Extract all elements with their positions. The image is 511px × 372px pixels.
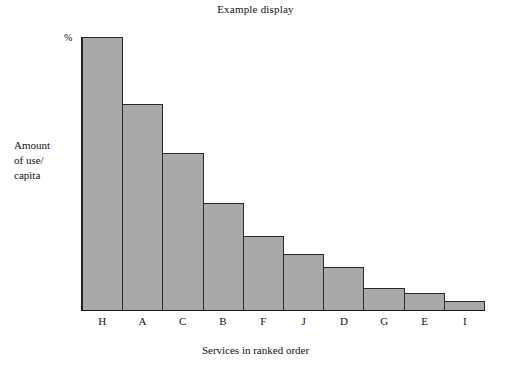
x-tick-C: C bbox=[163, 315, 203, 327]
x-tick-I: I bbox=[445, 315, 485, 327]
x-tick-B: B bbox=[203, 315, 243, 327]
y-axis-label-line-2: of use/ bbox=[14, 153, 78, 168]
x-axis-label: Services in ranked order bbox=[0, 344, 511, 356]
bar-B bbox=[203, 203, 244, 310]
bar-H bbox=[82, 37, 123, 310]
chart-figure: Example display % Amount of use/ capita … bbox=[0, 0, 511, 372]
x-tick-F: F bbox=[243, 315, 283, 327]
x-tick-H: H bbox=[82, 315, 122, 327]
y-axis-unit-marker: % bbox=[64, 33, 72, 43]
bar-D bbox=[323, 267, 364, 310]
bar-G bbox=[363, 288, 404, 310]
bar-I bbox=[444, 301, 485, 310]
bar-F bbox=[243, 236, 284, 310]
chart-title: Example display bbox=[0, 3, 511, 15]
bar-A bbox=[122, 104, 163, 310]
x-tick-A: A bbox=[122, 315, 162, 327]
x-tick-E: E bbox=[404, 315, 444, 327]
bar-E bbox=[404, 293, 445, 310]
y-axis-label: Amount of use/ capita bbox=[14, 138, 78, 183]
x-tick-D: D bbox=[324, 315, 364, 327]
bar-series bbox=[82, 37, 485, 310]
x-tick-J: J bbox=[283, 315, 323, 327]
x-axis-line bbox=[81, 310, 485, 311]
bar-C bbox=[162, 153, 203, 310]
bar-J bbox=[283, 254, 324, 310]
y-axis-label-line-3: capita bbox=[14, 168, 78, 183]
x-tick-G: G bbox=[364, 315, 404, 327]
plot-area bbox=[81, 37, 485, 311]
y-axis-label-line-1: Amount bbox=[14, 138, 78, 153]
x-axis-tick-labels: HACBFJDGEI bbox=[82, 315, 485, 327]
